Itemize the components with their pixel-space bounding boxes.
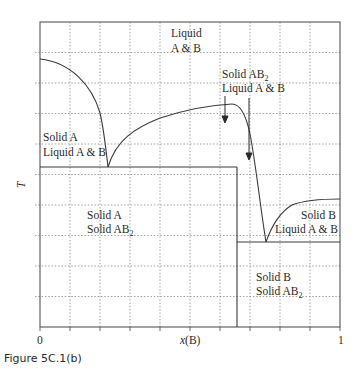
label-solidAB2-liquid-1: Solid AB2: [222, 68, 269, 83]
label-liquid-1: Liquid: [171, 27, 202, 40]
x-axis-label: x(B): [179, 334, 201, 347]
label-solidB-liquid-1: Solid B: [301, 209, 336, 221]
label-liquid-2: A & B: [171, 42, 201, 54]
label-solidB-solidAB2-1: Solid B: [256, 271, 291, 283]
region-labels: Liquid A & B Solid A Liquid A & B Solid …: [43, 27, 338, 300]
label-solidA-liquid-2: Liquid A & B: [43, 146, 106, 159]
phase-diagram: Liquid A & B Solid A Liquid A & B Solid …: [0, 0, 358, 376]
x-axis-ticks: [40, 327, 340, 331]
grid: [35, 22, 340, 327]
x-min-label: 0: [37, 334, 43, 346]
label-solidA-liquid-1: Solid A: [43, 131, 79, 143]
arrow-1-head: [222, 116, 228, 123]
y-axis-label: T: [15, 180, 27, 188]
label-solidA-solidAB2-2: Solid AB2: [87, 223, 134, 238]
label-solidB-solidAB2-2: Solid AB2: [256, 285, 303, 300]
label-solidA-solidAB2-1: Solid A: [87, 209, 123, 221]
label-solidAB2-liquid-2: Liquid A & B: [222, 82, 285, 95]
x-max-label: 1: [338, 334, 344, 346]
figure-caption: Figure 5C.1(b): [4, 352, 82, 365]
arrow-2-head: [246, 153, 252, 160]
label-solidB-liquid-2: Liquid A & B: [275, 223, 338, 236]
